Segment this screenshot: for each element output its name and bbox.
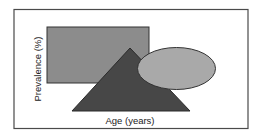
ellipse-shape <box>138 48 216 90</box>
diagram-canvas: Age (years) Prevalence (%) <box>0 0 261 138</box>
y-axis-label: Prevalence (%) <box>32 37 43 102</box>
x-axis-label: Age (years) <box>105 115 154 126</box>
